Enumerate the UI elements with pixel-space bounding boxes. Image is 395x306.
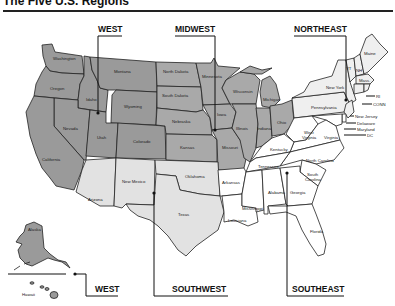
label-wyoming: Wyoming [124, 104, 142, 109]
label-kentucky: Kentucky [270, 147, 289, 152]
label-missouri: Missouri [222, 145, 238, 150]
region-label-midwest: MIDWEST [175, 24, 216, 34]
label-south-dakota: South Dakota [162, 93, 189, 98]
label-south-carolina-line2: Carolina [305, 177, 322, 182]
region-label-west-inset: WEST [95, 284, 120, 294]
label-new-hampshire: NH [356, 68, 362, 73]
region-label-west: WEST [98, 24, 123, 34]
state-hawaii-1 [30, 282, 34, 284]
label-indiana: Indiana [257, 126, 272, 131]
label-washington: Washington [53, 56, 76, 61]
label-texas: Texas [178, 212, 189, 217]
state-south-dakota[interactable] [157, 86, 203, 112]
label-louisiana: Louisiana [228, 218, 247, 223]
label-montana: Montana [114, 69, 131, 74]
label-kansas: Kansas [180, 145, 194, 150]
label-north-carolina: North Carolina [306, 158, 334, 163]
label-north-dakota: North Dakota [163, 69, 189, 74]
label-west-virginia-line2: Virginia [302, 135, 317, 140]
label-alaska: Alaska [28, 227, 42, 232]
label-virginia: Virginia [324, 135, 339, 140]
label-california: California [42, 157, 61, 162]
label-rhode-island: RI [376, 94, 380, 99]
label-nebraska: Nebraska [172, 119, 191, 124]
label-pennsylvania: Pennsylvania [311, 105, 337, 110]
label-maryland: Maryland [357, 127, 375, 132]
label-alabama: Alabama [268, 190, 286, 195]
state-alaska[interactable] [16, 222, 70, 268]
label-new-york: New York [326, 85, 345, 90]
label-hawaii: Hawaii [22, 292, 35, 297]
us-regions-map: Washington Oregon Idaho Montana Wyoming … [0, 0, 395, 306]
label-new-jersey: New Jersey [355, 114, 378, 119]
label-colorado: Colorado [133, 139, 151, 144]
label-tennessee: Tennessee [258, 164, 279, 169]
state-north-dakota[interactable] [156, 62, 201, 87]
state-montana[interactable] [90, 57, 157, 92]
label-vermont: VT [346, 66, 352, 71]
state-michigan-up [240, 66, 272, 74]
label-idaho: Idaho [86, 97, 97, 102]
label-dc: DC [367, 133, 373, 138]
state-hawaii-4[interactable] [50, 292, 58, 299]
state-delaware[interactable] [342, 114, 346, 122]
label-michigan: Michigan [263, 97, 281, 102]
label-wisconsin: Wisconsin [233, 89, 253, 94]
label-new-mexico: New Mexico [122, 179, 146, 184]
state-rhode-island[interactable] [364, 84, 370, 92]
label-nevada: Nevada [63, 126, 78, 131]
label-massachusetts: Mass. [359, 78, 370, 83]
label-florida: Florida [310, 229, 324, 234]
label-arkansas: Arkansas [222, 180, 240, 185]
region-label-northeast: NORTHEAST [294, 24, 348, 34]
label-oregon: Oregon [50, 86, 65, 91]
region-southwest [76, 158, 224, 256]
label-oklahoma: Oklahoma [185, 174, 205, 179]
label-georgia: Georgia [290, 190, 306, 195]
state-hawaii-2 [40, 286, 44, 288]
label-ohio: Ohio [277, 120, 287, 125]
state-michigan[interactable] [260, 76, 280, 108]
label-utah: Utah [97, 135, 107, 140]
label-iowa: Iowa [217, 112, 227, 117]
label-mississippi: Mississippi [242, 206, 263, 211]
label-maine: Maine [364, 51, 376, 56]
label-illinois: Illinois [236, 126, 248, 131]
region-label-southeast: SOUTHEAST [292, 284, 345, 294]
label-minnesota: Minnesota [202, 74, 222, 79]
label-arizona: Arizona [88, 197, 103, 202]
alaska-islands [14, 262, 30, 270]
label-delaware: Delaware [357, 121, 376, 126]
state-hawaii-3 [45, 288, 49, 291]
region-label-southwest: SOUTHWEST [172, 284, 227, 294]
label-connecticut: CONN [373, 102, 386, 107]
state-connecticut[interactable] [354, 84, 364, 94]
